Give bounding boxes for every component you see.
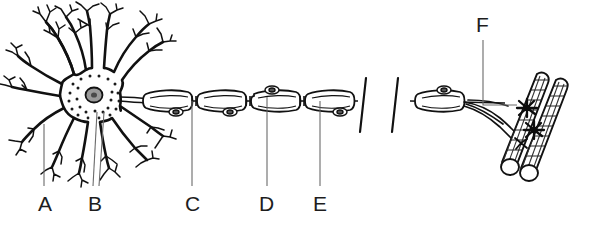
- motor-end-plate-1: [517, 99, 537, 117]
- leader-F: [483, 40, 517, 105]
- leader-B1: [93, 112, 97, 186]
- axon-break-symbol: [360, 78, 398, 132]
- label-F: F: [476, 14, 489, 35]
- figure-canvas: A B C D E F: [0, 0, 594, 234]
- motor-end-plate-2: [524, 121, 544, 139]
- label-A: A: [38, 193, 52, 214]
- axon-terminal-branches: [464, 100, 515, 139]
- label-B: B: [88, 193, 102, 214]
- label-E: E: [313, 193, 327, 214]
- nucleus: [86, 88, 103, 103]
- leader-lines: [44, 40, 517, 186]
- label-D: D: [259, 193, 274, 214]
- label-C: C: [185, 193, 200, 214]
